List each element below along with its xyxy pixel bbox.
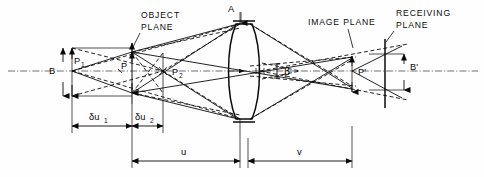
- u-symbol: u: [181, 146, 186, 157]
- ray-object-bottom-to-lens-bottom: [132, 93, 238, 119]
- label-beta: β: [284, 66, 290, 77]
- du2-symbol: δu: [135, 111, 145, 122]
- ray-chief-top: [132, 52, 352, 89]
- label-P1: P: [74, 56, 80, 66]
- image-plane-label-group: IMAGE PLANE: [308, 17, 376, 48]
- dimension-delta-u-group: δu 1 δu 2: [72, 93, 163, 133]
- label-A: A: [228, 4, 235, 14]
- label-B: B: [49, 66, 55, 76]
- image-plane-label: IMAGE PLANE: [308, 17, 376, 27]
- receiving-plane-leader: [386, 31, 394, 42]
- ray-object-top-to-lens-bottom: [132, 52, 238, 119]
- object-plane-group: [132, 43, 163, 104]
- label-B-prime: B': [410, 62, 418, 72]
- ray-object-bottom-to-lens-top: [132, 24, 238, 93]
- dashed-out-ray-to-recv-bottom: [260, 71, 408, 100]
- solid-ray-bundle: [72, 24, 402, 119]
- label-P: P: [121, 61, 127, 71]
- du1-subscript: 1: [104, 117, 108, 124]
- optical-diagram-figure: B B' P 1 P P 2: [0, 0, 484, 177]
- label-P2: P: [172, 67, 178, 77]
- receiving-plane-label-line2: PLANE: [396, 20, 428, 30]
- object-plane-label-line1: OBJECT: [141, 10, 180, 20]
- receiving-plane-label-line1: RECEIVING: [396, 8, 451, 18]
- receiving-plane-label-group: RECEIVING PLANE: [386, 8, 451, 42]
- label-P-prime: P': [358, 67, 366, 77]
- du2-subscript: 2: [150, 117, 154, 124]
- dimension-u-v-group: u v: [132, 126, 352, 168]
- du1-symbol: δu: [89, 111, 99, 122]
- label-P1-subscript: 1: [81, 61, 85, 68]
- label-P2-subscript: 2: [179, 72, 183, 79]
- object-plane-label-line2: PLANE: [141, 22, 173, 32]
- point-A-group: A: [228, 4, 241, 23]
- optical-ray-diagram-canvas: B B' P 1 P P 2: [0, 0, 484, 177]
- image-plane-leader: [348, 29, 353, 48]
- lens-body: [229, 24, 260, 119]
- object-plane-leader: [133, 33, 140, 47]
- dashed-cross-ray-2: [132, 53, 163, 93]
- v-symbol: v: [297, 146, 302, 157]
- dashed-ray-obj-bottom: [132, 93, 240, 115]
- ray-lens-bottom-to-image-top: [250, 58, 352, 119]
- ray-chief-bottom: [132, 57, 352, 93]
- p-prime-marker-group: P': [358, 67, 366, 77]
